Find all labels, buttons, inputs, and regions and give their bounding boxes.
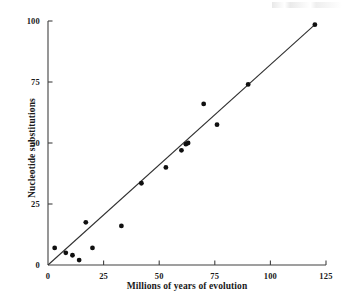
data-point: [215, 122, 220, 127]
data-point: [63, 250, 68, 255]
data-point: [312, 22, 317, 27]
data-point: [70, 253, 75, 258]
regression-line: [48, 25, 315, 265]
y-tick-label: 100: [12, 16, 40, 26]
x-tick-label: 125: [319, 271, 332, 281]
data-point: [119, 224, 124, 229]
fit-line-segment: [48, 25, 315, 265]
y-axis-title: Nucleotide substitutions: [27, 68, 37, 228]
scatter-plot-figure: 0255075100125 0255075100 Millions of yea…: [0, 0, 347, 302]
x-tick-label: 25: [99, 271, 108, 281]
data-point: [246, 82, 251, 87]
x-axis-ticks: [104, 261, 326, 266]
data-point: [179, 148, 184, 153]
data-point: [139, 181, 144, 186]
x-tick-label: 100: [264, 271, 277, 281]
data-point: [77, 258, 82, 263]
data-point: [186, 141, 191, 146]
x-tick-label: 0: [46, 271, 50, 281]
data-point: [52, 246, 57, 251]
data-point: [163, 165, 168, 170]
data-point: [90, 246, 95, 251]
plot-canvas: [0, 0, 347, 302]
x-axis-title: Millions of years of evolution: [127, 281, 248, 291]
x-tick-label: 50: [155, 271, 164, 281]
scan-artifact: [272, 2, 342, 8]
y-axis-ticks: [48, 21, 53, 204]
x-tick-label: 75: [210, 271, 219, 281]
data-point: [201, 102, 206, 107]
y-tick-label: 0: [12, 260, 40, 270]
data-point: [83, 220, 88, 225]
